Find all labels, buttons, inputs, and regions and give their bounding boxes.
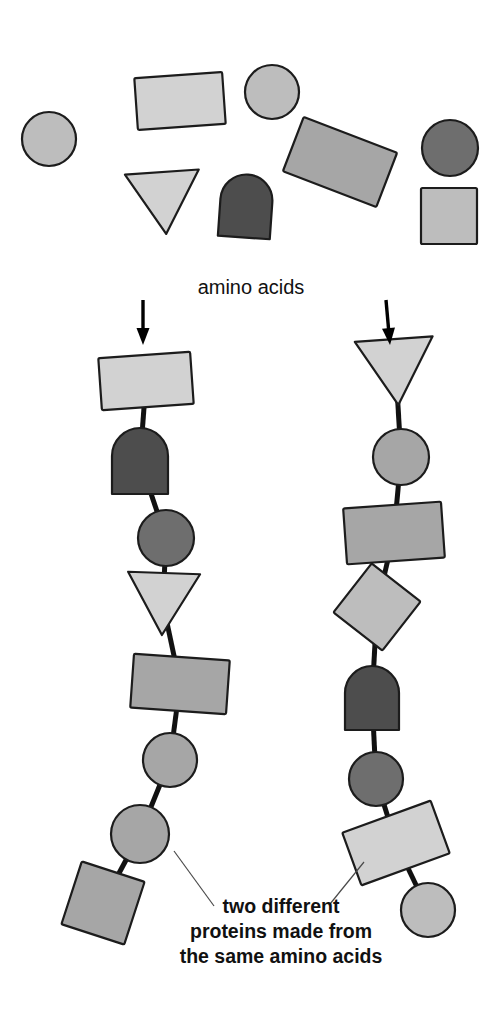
arrow-head-icon: [137, 328, 150, 345]
circle-free-3: [422, 120, 478, 176]
circle-residue: [349, 752, 403, 806]
rectangle-residue: [98, 352, 193, 410]
leader-line-left: [174, 851, 214, 906]
circle-residue: [138, 510, 194, 566]
caption-line-2: proteins made from: [190, 920, 372, 942]
protein-chain-right: [333, 336, 455, 937]
dome-residue: [345, 666, 399, 730]
dome-free-1: [218, 173, 274, 239]
rectangle-residue: [343, 502, 445, 565]
protein-chains-layer: [61, 336, 455, 944]
rectangle-residue: [342, 801, 449, 886]
square-free-1: [421, 188, 477, 244]
square-residue: [333, 563, 420, 650]
circle-residue: [143, 733, 197, 787]
circle-free-1: [22, 112, 76, 166]
amino-acid-protein-diagram: amino acids two different proteins made …: [0, 0, 502, 1013]
arrows-layer: [137, 300, 395, 345]
triangle-residue: [126, 572, 200, 636]
dome-residue: [112, 428, 168, 494]
caption-line-3: the same amino acids: [180, 945, 383, 967]
rectangle-free-1: [134, 72, 225, 130]
circle-residue: [401, 883, 455, 937]
triangle-residue: [355, 336, 437, 407]
caption-line-1: two different: [223, 895, 340, 917]
square-residue: [61, 861, 144, 944]
protein-chain-left: [61, 352, 229, 945]
rectangle-free-2: [283, 117, 397, 207]
circle-residue: [373, 429, 429, 485]
rectangle-residue: [130, 654, 230, 715]
amino-acids-label: amino acids: [198, 276, 305, 298]
free-amino-acids-layer: [22, 65, 478, 244]
circle-free-2: [245, 65, 299, 119]
circle-residue: [111, 805, 169, 863]
arrow-shaft: [386, 300, 389, 331]
diagram-canvas: amino acids two different proteins made …: [0, 0, 502, 1013]
triangle-free-1: [125, 169, 203, 236]
